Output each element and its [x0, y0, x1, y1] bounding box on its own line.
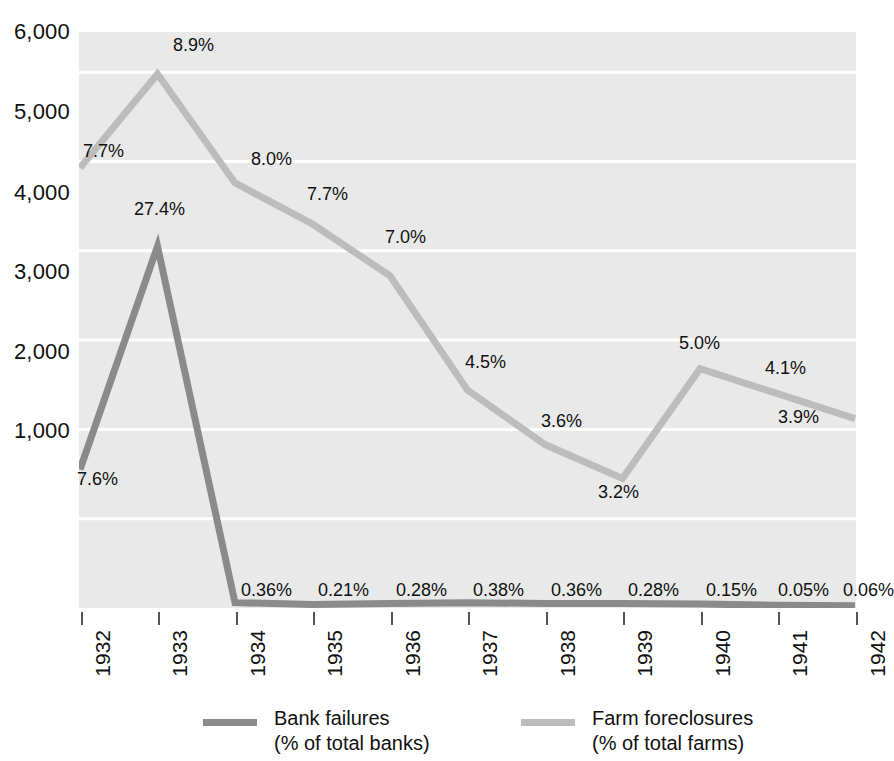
legend-swatch-line-icon: [521, 719, 575, 726]
legend-text: Farm foreclosures(% of total farms): [592, 706, 753, 756]
x-tick-mark: [778, 612, 780, 625]
data-point-label: 0.36%: [551, 581, 602, 599]
x-tick-label: 1938: [557, 630, 578, 677]
x-tick-label: 1934: [247, 630, 268, 677]
x-tick-label: 1941: [789, 630, 810, 677]
x-tick-mark: [158, 612, 160, 625]
data-point-label: 7.7%: [83, 142, 124, 160]
chart-legend: Bank failures(% of total banks)Farm fore…: [0, 706, 885, 761]
legend-entry[interactable]: Bank failures(% of total banks): [203, 706, 430, 756]
x-tick-mark: [856, 612, 858, 625]
x-tick-label: 1940: [712, 630, 733, 677]
x-tick-mark: [546, 612, 548, 625]
x-tick-mark: [468, 612, 470, 625]
y-tick-label: 4,000: [0, 182, 70, 204]
x-tick-mark: [81, 612, 83, 625]
legend-entry[interactable]: Farm foreclosures(% of total farms): [521, 706, 753, 756]
data-point-label: 0.28%: [396, 581, 447, 599]
series-line-bank-failures: [80, 246, 855, 605]
data-point-label: 0.28%: [628, 581, 679, 599]
gridlines: [79, 72, 856, 519]
data-point-label: 7.6%: [77, 470, 118, 488]
data-point-label: 27.4%: [134, 200, 185, 218]
data-point-label: 3.6%: [541, 412, 582, 430]
x-tick-label: 1933: [169, 630, 190, 677]
legend-series-name: Bank failures: [274, 706, 430, 731]
data-point-label: 4.5%: [465, 353, 506, 371]
x-tick-mark: [391, 612, 393, 625]
x-tick-mark: [236, 612, 238, 625]
data-point-label: 4.1%: [765, 359, 806, 377]
plot-area: [79, 32, 856, 608]
x-tick-label: 1932: [92, 630, 113, 677]
data-point-label: 7.0%: [385, 228, 426, 246]
data-point-label: 0.38%: [473, 581, 524, 599]
legend-series-sublabel: (% of total banks): [274, 731, 430, 756]
legend-series-sublabel: (% of total farms): [592, 731, 753, 756]
x-tick-label: 1937: [479, 630, 500, 677]
data-point-label: 0.05%: [778, 581, 829, 599]
data-point-label: 7.7%: [307, 185, 348, 203]
y-tick-label: 2,000: [0, 341, 70, 363]
y-tick-label: 1,000: [0, 420, 70, 442]
y-axis: 6,0005,0004,0003,0002,0001,000: [0, 0, 70, 640]
data-point-label: 8.9%: [173, 36, 214, 54]
data-point-label: 3.2%: [598, 483, 639, 501]
x-tick-label: 1942: [867, 630, 888, 677]
x-tick-label: 1936: [402, 630, 423, 677]
y-tick-label: 6,000: [0, 21, 70, 43]
x-axis: 1932193319341935193619371938193919401941…: [0, 608, 885, 704]
data-point-label: 5.0%: [679, 334, 720, 352]
x-tick-label: 1939: [634, 630, 655, 677]
data-point-label: 0.36%: [241, 581, 292, 599]
data-point-label: 8.0%: [251, 150, 292, 168]
plot-svg: [79, 32, 856, 608]
data-point-label: 0.21%: [318, 581, 369, 599]
data-point-label: 0.15%: [706, 581, 757, 599]
y-tick-label: 5,000: [0, 101, 70, 123]
x-tick-mark: [623, 612, 625, 625]
y-tick-label: 3,000: [0, 261, 70, 283]
legend-text: Bank failures(% of total banks): [274, 706, 430, 756]
x-tick-label: 1935: [324, 630, 345, 677]
data-point-label: 3.9%: [778, 408, 819, 426]
x-tick-mark: [313, 612, 315, 625]
legend-swatch-line-icon: [203, 719, 257, 726]
legend-series-name: Farm foreclosures: [592, 706, 753, 731]
x-tick-mark: [701, 612, 703, 625]
data-point-label: 0.06%: [843, 581, 894, 599]
